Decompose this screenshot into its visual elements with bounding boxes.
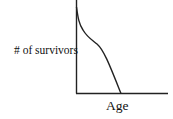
x-axis-label: Age: [106, 98, 129, 114]
survivorship-curve: [77, 7, 122, 94]
survivorship-diagram: [0, 0, 173, 119]
y-axis-label: # of survivors: [14, 44, 78, 56]
